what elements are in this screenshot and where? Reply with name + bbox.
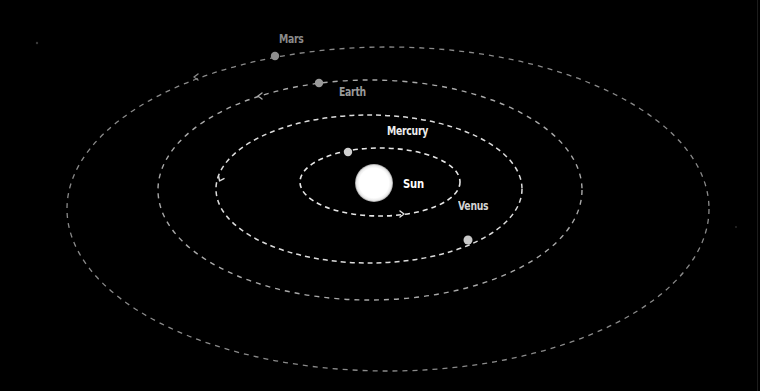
mercury-planet-icon: [344, 148, 352, 156]
venus-planet-icon: [464, 236, 473, 245]
mercury-label: Mercury: [387, 124, 428, 138]
mars-orbit: [67, 47, 709, 371]
venus-label: Venus: [458, 199, 488, 213]
earth-direction-arrow-icon: [258, 93, 262, 99]
orbits-layer: [67, 47, 709, 371]
sun-label: Sun: [403, 176, 424, 191]
earth-planet-icon: [315, 79, 323, 87]
edge-divider: [757, 0, 758, 391]
sun-icon: [355, 164, 393, 202]
mars-label: Mars: [279, 32, 304, 46]
earth-label: Earth: [339, 85, 366, 99]
mercury-direction-arrow-icon: [400, 211, 404, 217]
mars-planet-icon: [271, 52, 279, 60]
solar-system-diagram: [0, 0, 760, 391]
star-icon: [735, 226, 737, 228]
star-icon: [36, 42, 38, 44]
